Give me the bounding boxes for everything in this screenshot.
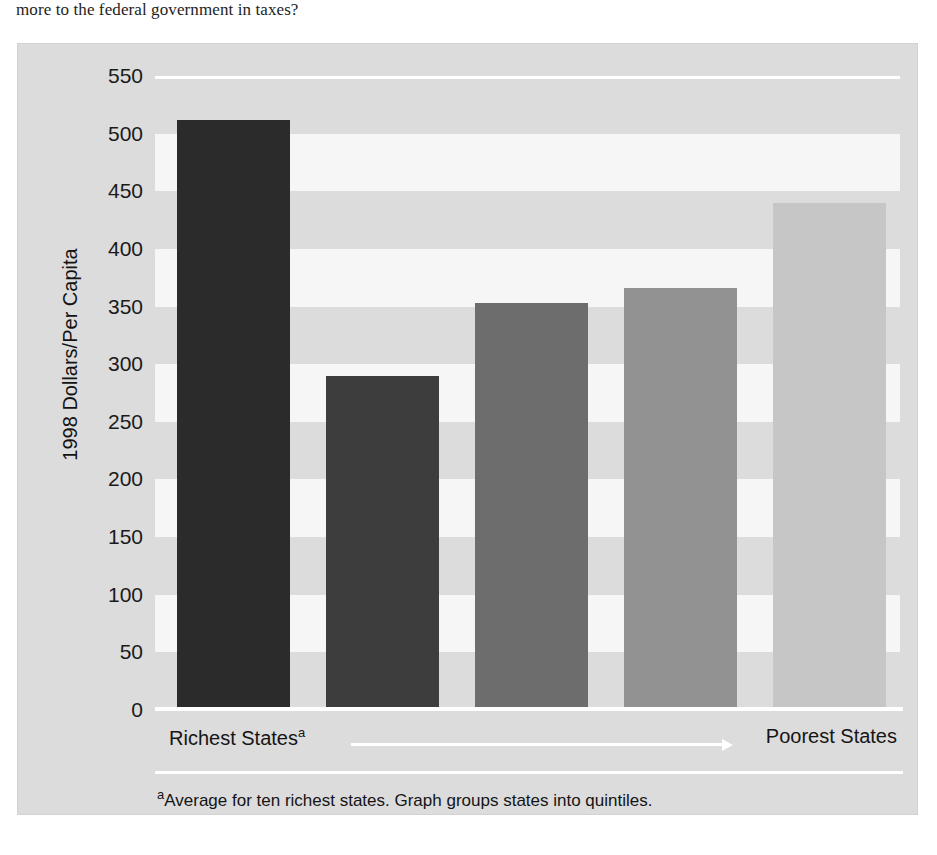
y-tick-0: 0 [73, 698, 143, 722]
footnote: aAverage for ten richest states. Graph g… [157, 787, 652, 811]
y-tick-150: 150 [73, 525, 143, 549]
y-tick-250: 250 [73, 410, 143, 434]
direction-arrow-icon [351, 739, 733, 749]
bar-1 [177, 120, 290, 710]
y-tick-100: 100 [73, 583, 143, 607]
x-axis-label-richest-text: Richest States [169, 727, 298, 749]
y-tick-550: 550 [73, 64, 143, 88]
y-tick-400: 400 [73, 237, 143, 261]
arrow-shaft [351, 743, 725, 746]
plot-area [155, 76, 900, 710]
bar-series [155, 76, 900, 710]
x-axis-label-richest: Richest Statesa [169, 725, 305, 750]
footnote-divider [155, 771, 903, 774]
y-tick-350: 350 [73, 295, 143, 319]
x-axis-baseline [155, 707, 903, 711]
y-tick-500: 500 [73, 122, 143, 146]
y-tick-50: 50 [73, 640, 143, 664]
x-axis-labels: Richest Statesa Poorest States [155, 725, 903, 759]
bar-4 [624, 288, 737, 710]
figure-panel: 1998 Dollars/Per Capita 5505004504003503… [17, 43, 918, 815]
bar-3 [475, 303, 588, 710]
y-tick-450: 450 [73, 179, 143, 203]
y-tick-300: 300 [73, 352, 143, 376]
y-axis-tick-labels: 550500450400350300250200150100500 [65, 76, 143, 710]
y-tick-200: 200 [73, 467, 143, 491]
arrow-head [722, 739, 733, 751]
footnote-body: Average for ten richest states. Graph gr… [164, 791, 652, 810]
bar-5 [773, 203, 886, 710]
page-caption: more to the federal government in taxes? [16, 0, 716, 20]
footnote-marker-a: a [298, 725, 305, 740]
x-axis-label-poorest: Poorest States [766, 725, 897, 748]
bar-2 [326, 376, 439, 710]
